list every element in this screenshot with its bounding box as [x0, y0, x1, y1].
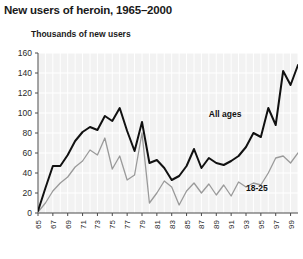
- y-tick-label: 60: [23, 148, 33, 158]
- x-tick-label: 65: [34, 219, 43, 228]
- y-tick-label: 120: [18, 88, 32, 98]
- x-tick-label: 83: [168, 219, 177, 228]
- y-tick-label: 160: [18, 48, 32, 58]
- x-tick-label: 99: [287, 219, 296, 228]
- x-tick-label: 85: [183, 219, 192, 228]
- x-tick-label: 79: [138, 219, 147, 228]
- x-tick-label: 87: [197, 219, 206, 228]
- x-tick-label: 81: [153, 219, 162, 228]
- y-tick-label: 140: [18, 68, 32, 78]
- x-tick-label: 75: [108, 219, 117, 228]
- x-tick-label: 73: [93, 219, 102, 228]
- series-label-18-25: 18-25: [246, 183, 268, 193]
- chart-plot-area: 0204060801001201401606567697173757779818…: [0, 0, 303, 259]
- x-tick-label: 95: [257, 219, 266, 228]
- x-tick-label: 97: [272, 219, 281, 228]
- y-tick-label: 40: [23, 168, 33, 178]
- series-label-all-ages: All ages: [209, 109, 242, 119]
- x-tick-label: 93: [242, 219, 251, 228]
- chart-svg: 0204060801001201401606567697173757779818…: [0, 0, 303, 259]
- y-tick-label: 0: [27, 208, 32, 218]
- y-tick-label: 20: [23, 188, 33, 198]
- x-tick-label: 71: [79, 219, 88, 228]
- x-tick-label: 77: [123, 219, 132, 228]
- x-tick-label: 89: [212, 219, 221, 228]
- y-tick-label: 100: [18, 108, 32, 118]
- x-tick-label: 67: [49, 219, 58, 228]
- y-tick-label: 80: [23, 128, 33, 138]
- x-tick-label: 69: [64, 219, 73, 228]
- x-tick-label: 91: [227, 219, 236, 228]
